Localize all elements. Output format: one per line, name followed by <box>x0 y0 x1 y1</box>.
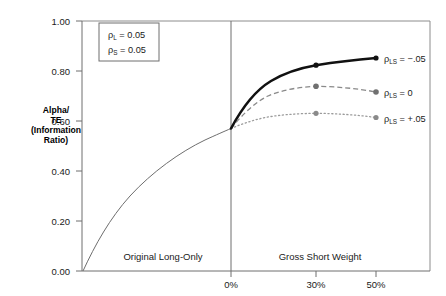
parameter-box: ρL = 0.05 ρS = 0.05 <box>99 23 159 61</box>
y-tick-label: 0.40 <box>52 166 71 177</box>
series-rho-value: = −.05 <box>397 54 426 64</box>
y-tick-label: 0.80 <box>52 66 71 77</box>
x-tick-label: 30% <box>306 279 326 290</box>
x-tick-label: 50% <box>366 279 386 290</box>
rho-value: = 0.05 <box>117 30 145 40</box>
information-ratio-chart: 1.00 0.80 0.60 0.40 0.20 0.00 Alpha/ TE … <box>0 0 446 296</box>
y-tick-label: 0.00 <box>52 266 71 277</box>
chart-container: 1.00 0.80 0.60 0.40 0.20 0.00 Alpha/ TE … <box>0 0 446 296</box>
region-label-left: Original Long-Only <box>123 251 202 262</box>
chart-background <box>0 0 446 296</box>
y-axis-title-line: TE <box>51 115 62 125</box>
series-rho-subscript: LS <box>389 92 397 99</box>
rho-value: = 0.05 <box>118 45 146 55</box>
y-axis-title-line: Alpha/ <box>43 105 70 115</box>
x-tick-label: 0% <box>224 279 238 290</box>
series-rho-subscript: LS <box>389 58 397 65</box>
svg-text:ρLS = 0: ρLS = 0 <box>384 88 413 99</box>
region-label-right: Gross Short Weight <box>279 251 362 262</box>
y-tick-label: 1.00 <box>52 16 71 27</box>
y-axis-title-line: Ratio) <box>44 135 68 145</box>
y-axis-title-line: (Information <box>31 125 81 135</box>
series-rho-value: = 0 <box>397 88 413 98</box>
series-rho-value: = +.05 <box>397 114 426 124</box>
y-tick-label: 0.20 <box>52 216 71 227</box>
series-label-rho-ls-zero: ρLS = 0 <box>384 88 413 99</box>
series-rho-subscript: LS <box>389 118 397 125</box>
